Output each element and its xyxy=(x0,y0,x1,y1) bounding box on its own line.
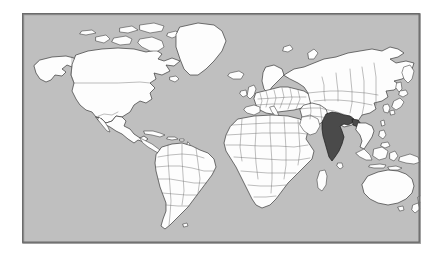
page-root: .ocean { fill: #bfbfbf; } .land { fill: … xyxy=(0,0,442,263)
world-map-svg: .ocean { fill: #bfbfbf; } .land { fill: … xyxy=(22,13,421,244)
landmass-falkland-islands xyxy=(183,223,188,227)
landmass-java xyxy=(369,164,386,168)
landmass-japan-kyushu xyxy=(390,110,395,115)
landmass-taiwan xyxy=(381,120,385,126)
landmass-puerto-rico xyxy=(180,139,184,141)
world-map-figure: .ocean { fill: #bfbfbf; } .land { fill: … xyxy=(22,13,421,244)
